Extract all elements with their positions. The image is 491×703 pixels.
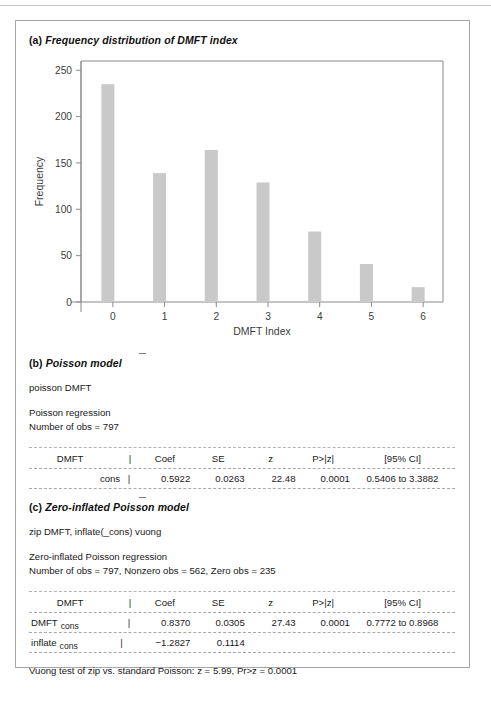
svg-text:150: 150 [55,158,72,169]
row-se: 0.1114 [190,637,244,648]
panel-b-title: (b) Poisson model [29,357,457,369]
col-header-p: P>|z| [296,453,350,464]
row-term: cons [57,641,78,651]
row-p: 0.0001 [295,473,349,484]
figure-container: (a) Frequency distribution of DMFT index… [15,20,470,668]
pipe-cross-tick [139,497,146,498]
row-eq: DMFT [31,617,58,628]
panel-b-info-line-1: Number of obs = 797 [29,420,457,434]
col-header-ci: [95% CI] [350,597,455,608]
row-z: 27.43 [245,617,296,628]
row-z: 22.48 [245,473,296,484]
col-header-se: SE [191,597,245,608]
col-pipe: | [121,453,138,464]
vuong-test-footnote: Vuong test of zip vs. standard Poisson: … [29,665,457,676]
table-header-row: DMFT | Coef SE z P>|z| [95% CI] [29,448,455,468]
svg-text:5: 5 [369,311,375,322]
row-coef: 0.5922 [138,473,191,484]
table-row: cons | 0.5922 0.0263 22.48 0.0001 0.5406… [29,469,455,488]
panel-c-info: Zero-inflated Poisson regression Number … [29,550,457,577]
svg-text:250: 250 [55,65,72,76]
svg-text:4: 4 [317,311,323,322]
row-ci: 0.5406 to 3.3882 [350,473,455,484]
pipe-cross-tick [139,353,146,354]
row-term: cons [58,621,79,631]
row-p: 0.0001 [296,617,350,628]
col-header-se: SE [191,453,245,464]
col-header-dmft: DMFT [29,597,121,608]
table-row: inflatecons | −1.2827 0.1114 [29,633,455,652]
row-label: inflatecons [29,637,120,648]
table-rule-bottom [29,652,455,653]
svg-text:3: 3 [265,311,271,322]
panel-b-info-line-0: Poisson regression [29,406,457,420]
panel-c-command: zip DMFT, inflate(_cons) vuong [29,526,457,539]
col-header-ci: [95% CI] [350,453,455,464]
frequency-bar-chart: 050100150200250Frequency0123456DMFT Inde… [29,55,457,343]
svg-text:0: 0 [110,311,116,322]
svg-text:50: 50 [61,250,73,261]
row-se: 0.0263 [190,473,244,484]
table-header-row: DMFT | Coef SE z P>|z| [95% CI] [29,592,455,612]
svg-text:Frequency: Frequency [33,156,45,206]
col-header-z: z [245,453,296,464]
panel-b-command: poisson DMFT [29,382,457,395]
svg-text:2: 2 [213,311,219,322]
panel-a-heading-text: Frequency distribution of DMFT index [45,34,238,46]
svg-text:DMFT Index: DMFT Index [233,325,291,337]
row-ci: 0.7772 to 0.8968 [350,617,455,628]
panel-c-heading-text: Zero-inflated Poisson model [45,501,189,513]
panel-a-tag: (a) [29,34,42,46]
panel-c-title: (c) Zero-inflated Poisson model [29,501,457,513]
page-top-rule [0,5,491,6]
row-eq: inflate [31,637,57,648]
row-label: cons [29,473,120,484]
svg-text:1: 1 [162,311,168,322]
col-header-dmft: DMFT [29,453,121,464]
panel-b-heading-text: Poisson model [46,357,122,369]
svg-text:100: 100 [55,204,72,215]
chart-svg: 050100150200250Frequency0123456DMFT Inde… [29,55,457,343]
panel-b: (b) Poisson model poisson DMFT Poisson r… [29,357,457,489]
poisson-results-table: DMFT | Coef SE z P>|z| [95% CI] cons | 0… [29,447,455,489]
panel-c-info-line-0: Zero-inflated Poisson regression [29,550,457,564]
panel-c-tag: (c) [29,501,42,513]
row-label: DMFTcons [29,617,120,628]
col-pipe: | [121,597,138,608]
panel-c-info-line-1: Number of obs = 797, Nonzero obs = 562, … [29,564,457,578]
row-coef: 0.8370 [138,617,191,628]
panel-a-title: (a) Frequency distribution of DMFT index [29,34,238,46]
zip-results-table: DMFT | Coef SE z P>|z| [95% CI] DMFTcons… [29,591,455,653]
svg-text:6: 6 [420,311,426,322]
row-coef: −1.2827 [138,637,191,648]
col-header-p: P>|z| [296,597,350,608]
row-term: cons [100,473,120,484]
panel-b-tag: (b) [29,357,43,369]
svg-text:200: 200 [55,111,72,122]
row-pipe: | [120,637,138,648]
col-header-coef: Coef [139,453,191,464]
row-pipe: | [120,473,138,484]
table-row: DMFTcons | 0.8370 0.0305 27.43 0.0001 0.… [29,613,455,632]
panel-b-info: Poisson regression Number of obs = 797 [29,406,457,433]
svg-text:0: 0 [66,297,72,308]
row-pipe: | [120,617,138,628]
col-header-z: z [245,597,296,608]
row-se: 0.0305 [190,617,244,628]
table-rule-bottom [29,488,455,489]
col-header-coef: Coef [139,597,191,608]
panel-c: (c) Zero-inflated Poisson model zip DMFT… [29,501,457,676]
